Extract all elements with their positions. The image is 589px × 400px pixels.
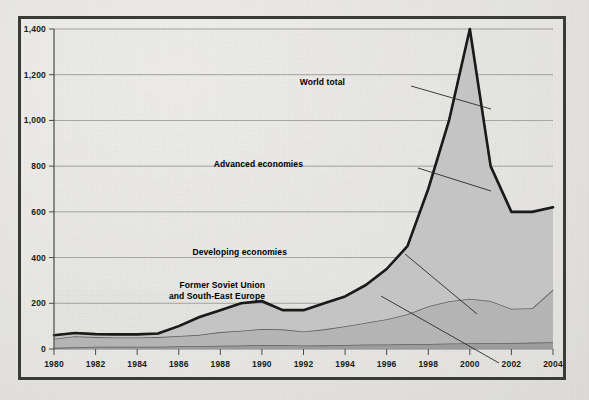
x-tick-label: 1998 [408,359,448,369]
x-tick-label: 2004 [533,359,573,369]
y-tick-marks [49,29,54,349]
annotation-label-line2: and South-East Europe [65,291,265,302]
y-tick-label: 400 [6,253,46,263]
y-tick-label: 600 [6,207,46,217]
y-tick-label: 1,000 [6,115,46,125]
annotation-advanced-economies: Advanced economies [103,159,303,170]
x-tick-label: 1988 [200,359,240,369]
x-tick-label: 1996 [367,359,407,369]
x-tick-label: 1994 [325,359,365,369]
annotation-label: Advanced economies [103,159,303,170]
y-tick-label: 1,200 [6,70,46,80]
x-tick-label: 1992 [284,359,324,369]
y-tick-label: 1,400 [6,24,46,34]
annotation-former-soviet-union: Former Soviet Unionand South-East Europe [65,280,265,302]
y-tick-label: 0 [6,344,46,354]
x-tick-label: 1980 [34,359,74,369]
chart-frame: 02004006008001,0001,2001,400 19801982198… [18,16,566,380]
x-tick-marks [54,349,553,355]
x-tick-label: 1986 [159,359,199,369]
area-chart [21,19,563,377]
y-tick-label: 200 [6,298,46,308]
y-tick-label: 800 [6,161,46,171]
x-tick-label: 1982 [76,359,116,369]
annotation-label: World total [145,77,345,88]
x-tick-label: 2002 [491,359,531,369]
x-tick-label: 1990 [242,359,282,369]
x-tick-label: 2000 [450,359,490,369]
annotation-developing-economies: Developing economies [87,247,287,258]
annotation-label: Former Soviet Union [65,280,265,291]
x-tick-label: 1984 [117,359,157,369]
annotation-label: Developing economies [87,247,287,258]
annotation-world-total: World total [145,77,345,88]
